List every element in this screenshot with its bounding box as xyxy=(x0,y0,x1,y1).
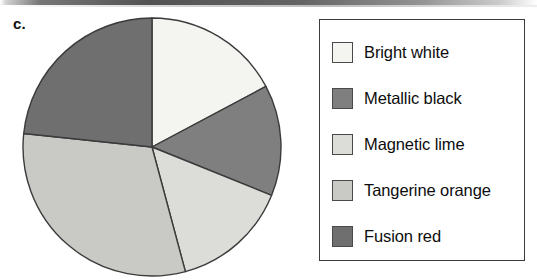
legend-item-tangerine-orange[interactable]: Tangerine orange xyxy=(320,167,524,213)
legend-item-magnetic-lime[interactable]: Magnetic lime xyxy=(320,121,524,167)
legend-label-tangerine-orange: Tangerine orange xyxy=(364,181,491,200)
legend-label-magnetic-lime: Magnetic lime xyxy=(364,135,465,154)
legend-swatch-tangerine-orange xyxy=(332,180,353,201)
pie-chart xyxy=(20,16,284,280)
legend-swatch-fusion-red xyxy=(332,226,353,247)
pie-slice xyxy=(24,18,152,147)
pie-chart-svg xyxy=(20,16,284,280)
legend-swatch-magnetic-lime xyxy=(332,134,353,155)
legend-item-bright-white[interactable]: Bright white xyxy=(320,29,524,75)
legend-item-fusion-red[interactable]: Fusion red xyxy=(320,213,524,259)
legend-swatch-bright-white xyxy=(332,42,353,63)
legend-label-fusion-red: Fusion red xyxy=(364,227,441,246)
legend-box: Bright white Metallic black Magnetic lim… xyxy=(319,19,525,261)
legend-swatch-metallic-black xyxy=(332,88,353,109)
legend-label-metallic-black: Metallic black xyxy=(364,89,462,108)
scan-artifact-strip-lower xyxy=(0,5,537,7)
legend-item-metallic-black[interactable]: Metallic black xyxy=(320,75,524,121)
pie-slice-group xyxy=(23,18,281,276)
legend-label-bright-white: Bright white xyxy=(364,43,449,62)
